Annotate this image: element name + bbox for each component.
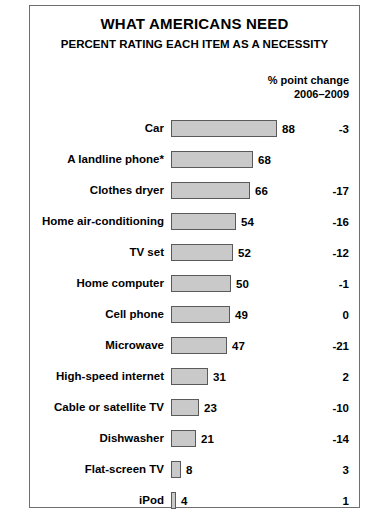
bar-value-label: 4 xyxy=(181,494,187,508)
bar-row: Car88-3 xyxy=(30,117,359,148)
chart-subtitle: PERCENT RATING EACH ITEM AS A NECESSITY xyxy=(30,37,359,51)
bar-value-label: 68 xyxy=(258,153,271,167)
bar-value-label: 49 xyxy=(235,308,248,322)
bar-row: Flat-screen TV83 xyxy=(30,458,359,489)
bar-value-label: 31 xyxy=(213,370,226,384)
bar-row: Home computer50-1 xyxy=(30,272,359,303)
bar-row-label: Cell phone xyxy=(4,307,164,322)
bar-row: High-speed internet312 xyxy=(30,365,359,396)
bar-row: Microwave47-21 xyxy=(30,334,359,365)
bar-row-label: TV set xyxy=(4,245,164,260)
bar xyxy=(171,244,233,261)
bar-row: iPod41 xyxy=(30,489,359,518)
bar xyxy=(171,492,176,509)
bar-value-label: 88 xyxy=(282,122,295,136)
bar-row-label: Home air-conditioning xyxy=(4,214,164,229)
bar-row-label: Dishwasher xyxy=(4,431,164,446)
change-value: 3 xyxy=(303,463,349,477)
bar xyxy=(171,430,196,447)
bar-value-label: 47 xyxy=(232,339,245,353)
change-value: -17 xyxy=(303,184,349,198)
bar xyxy=(171,306,230,323)
change-value: -21 xyxy=(303,339,349,353)
bar-value-label: 66 xyxy=(255,184,268,198)
bar xyxy=(171,182,250,199)
change-column-header-line1: % point change xyxy=(268,74,349,88)
bar-value-label: 54 xyxy=(241,215,254,229)
bar-row-label: Home computer xyxy=(4,276,164,291)
bar-value-label: 8 xyxy=(186,463,192,477)
bar-row: A landline phone*68 xyxy=(30,148,359,179)
bar-row: Clothes dryer66-17 xyxy=(30,179,359,210)
bar-value-label: 50 xyxy=(236,277,249,291)
bar-row: Dishwasher21-14 xyxy=(30,427,359,458)
bar xyxy=(171,461,181,478)
bar-row: TV set52-12 xyxy=(30,241,359,272)
bar-value-label: 23 xyxy=(204,401,217,415)
change-value: -10 xyxy=(303,401,349,415)
bar-row-label: Cable or satellite TV xyxy=(4,400,164,415)
change-value: -1 xyxy=(303,277,349,291)
bar-row: Cable or satellite TV23-10 xyxy=(30,396,359,427)
bar-row-label: High-speed internet xyxy=(4,369,164,384)
change-value: -14 xyxy=(303,432,349,446)
change-value: 2 xyxy=(303,370,349,384)
bar-row-label: Flat-screen TV xyxy=(4,462,164,477)
change-column-header-line2: 2006–2009 xyxy=(268,88,349,102)
change-value: 1 xyxy=(303,494,349,508)
chart-title: WHAT AMERICANS NEED xyxy=(30,15,359,33)
change-value: -16 xyxy=(303,215,349,229)
bar-row-label: A landline phone* xyxy=(4,152,164,167)
bar-row: Cell phone490 xyxy=(30,303,359,334)
bar xyxy=(171,151,253,168)
bar-value-label: 52 xyxy=(238,246,251,260)
bar-zone: 68 xyxy=(171,150,359,172)
chart-header: WHAT AMERICANS NEED PERCENT RATING EACH … xyxy=(30,6,359,51)
change-column-header: % point change 2006–2009 xyxy=(268,74,349,101)
bar-row: Home air-conditioning54-16 xyxy=(30,210,359,241)
bar xyxy=(171,399,199,416)
bar-row-label: Car xyxy=(4,121,164,136)
chart-frame: WHAT AMERICANS NEED PERCENT RATING EACH … xyxy=(29,5,360,508)
change-value: -3 xyxy=(303,122,349,136)
bar xyxy=(171,120,277,137)
change-value: -12 xyxy=(303,246,349,260)
bar xyxy=(171,213,236,230)
bar xyxy=(171,368,208,385)
change-value: 0 xyxy=(303,308,349,322)
bar xyxy=(171,275,231,292)
bar-value-label: 21 xyxy=(201,432,214,446)
bar xyxy=(171,337,227,354)
bar-row-label: Microwave xyxy=(4,338,164,353)
bar-rows: Car88-3A landline phone*68Clothes dryer6… xyxy=(30,117,359,518)
bar-row-label: iPod xyxy=(4,493,164,508)
bar-row-label: Clothes dryer xyxy=(4,183,164,198)
